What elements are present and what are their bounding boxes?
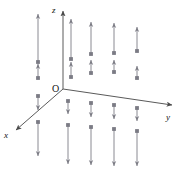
field-vector	[66, 123, 70, 164]
vector-base-marker	[135, 129, 139, 133]
vector-base-marker	[89, 101, 93, 105]
field-vector	[89, 22, 93, 56]
y-axis	[63, 89, 172, 105]
z-axis-label: z	[51, 5, 56, 15]
field-vector	[135, 66, 139, 80]
vector-base-marker	[66, 123, 70, 127]
field-vector	[36, 14, 40, 64]
field-vector	[89, 125, 93, 165]
coordinate-system-diagram: z y x O	[0, 0, 187, 187]
vector-base-marker	[112, 103, 116, 107]
vector-base-marker	[69, 57, 73, 61]
field-vector	[69, 19, 73, 61]
field-vector	[36, 120, 40, 156]
vector-base-marker	[89, 125, 93, 129]
y-axis-label: y	[165, 112, 170, 122]
vector-base-marker	[135, 106, 139, 110]
vector-base-marker	[135, 49, 139, 53]
field-vector	[135, 129, 139, 166]
field-vector	[112, 103, 116, 119]
vector-base-marker	[66, 99, 70, 103]
field-vector	[135, 27, 139, 53]
field-vector	[112, 127, 116, 166]
vector-base-marker	[112, 70, 116, 74]
field-vector	[89, 101, 93, 117]
x-axis-label: x	[3, 130, 8, 140]
vector-base-marker	[36, 120, 40, 124]
field-vector	[112, 60, 116, 74]
field-vector	[135, 106, 139, 121]
vector-base-marker	[36, 60, 40, 64]
vector-base-marker	[69, 75, 73, 79]
field-vector	[69, 62, 73, 79]
axes-group	[16, 11, 172, 130]
vector-base-marker	[89, 52, 93, 56]
origin-label: O	[52, 83, 59, 94]
field-vector	[66, 99, 70, 114]
field-vector	[36, 64, 40, 80]
field-vector	[112, 23, 116, 55]
vector-base-marker	[36, 76, 40, 80]
vector-base-marker	[89, 71, 93, 75]
vector-base-marker	[112, 127, 116, 131]
vector-base-marker	[112, 51, 116, 55]
vector-base-marker	[135, 76, 139, 80]
vector-base-marker	[36, 94, 40, 98]
vector-field-figure: z y x O	[0, 0, 187, 187]
field-vector	[36, 94, 40, 110]
field-vector	[89, 60, 93, 75]
